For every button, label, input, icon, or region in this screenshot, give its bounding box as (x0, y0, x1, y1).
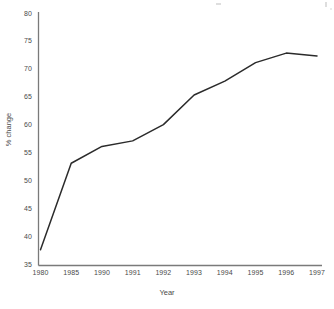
x-tick-label: 1996 (269, 269, 303, 276)
data-series-line (41, 53, 318, 250)
x-tick-label: 1990 (85, 269, 119, 276)
axis-lines (39, 12, 323, 266)
y-tick-label: 45 (10, 205, 32, 212)
y-tick-label: 70 (10, 65, 32, 72)
x-tick-label: 1994 (208, 269, 242, 276)
series-polyline (41, 53, 318, 250)
y-tick-label: 40 (10, 233, 32, 240)
x-tick-label: 1985 (54, 269, 88, 276)
x-tick-label: 1995 (239, 269, 273, 276)
x-tick-label: 1997 (300, 269, 334, 276)
x-tick-label: 1980 (24, 269, 58, 276)
y-tick-label: 50 (10, 177, 32, 184)
y-tick-label: 55 (10, 149, 32, 156)
x-tick-label: 1993 (177, 269, 211, 276)
y-tick-label: 35 (10, 261, 32, 268)
x-tick-label: 1992 (146, 269, 180, 276)
y-axis-title: % change (4, 100, 13, 160)
y-tick-label: 60 (10, 121, 32, 128)
line-chart-plot (0, 0, 334, 309)
x-axis-title: Year (0, 288, 334, 297)
x-tick-label: 1991 (116, 269, 150, 276)
y-tick-label: 80 (10, 10, 32, 17)
y-tick-label: 75 (10, 37, 32, 44)
y-tick-label: 65 (10, 93, 32, 100)
chart-figure: 35404550556065707580 1980198519901991199… (0, 0, 334, 309)
